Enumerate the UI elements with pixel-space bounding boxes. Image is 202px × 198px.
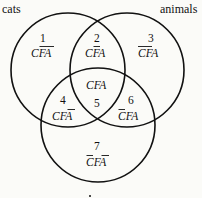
region-expression: CFA — [86, 79, 107, 91]
region-expression: CFA — [52, 110, 73, 122]
region-2: 2 CFA — [85, 32, 106, 59]
region-expression: CFA — [85, 47, 106, 59]
region-number: 6 — [128, 94, 134, 106]
region-number: 7 — [94, 140, 100, 152]
region-4: 4 CFA — [52, 94, 75, 122]
region-6: 6 CFA — [118, 94, 139, 122]
region-number: 3 — [148, 32, 154, 44]
region-1: 1 CFA — [31, 32, 54, 59]
region-expression: CFA — [31, 47, 52, 59]
region-expression: CFA — [138, 47, 159, 59]
region-number: 2 — [94, 32, 100, 44]
region-expression: CFA — [118, 110, 139, 122]
region-number: 1 — [40, 32, 46, 44]
venn-diagram: cats animals 1 CFA 2 CFA 3 CFA CFA 5 4 — [0, 0, 202, 198]
set-label-animals: animals — [160, 2, 198, 16]
region-number: 5 — [94, 97, 100, 109]
region-expression: CFA — [86, 156, 107, 168]
set-label-cats: cats — [2, 2, 21, 16]
region-3: 3 CFA — [138, 32, 159, 59]
region-5: CFA 5 — [86, 79, 107, 109]
cropped-label-mark — [89, 195, 91, 197]
region-number: 4 — [60, 94, 66, 106]
region-7: 7 CFA — [86, 140, 109, 168]
